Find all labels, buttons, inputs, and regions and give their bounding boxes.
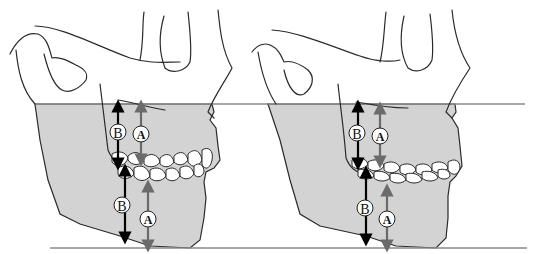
svg-text:A: A [376, 130, 385, 144]
svg-text:A: A [144, 213, 153, 227]
right-nasal [446, 10, 470, 118]
left-lower-a-label: A [140, 211, 156, 227]
svg-text:B: B [117, 199, 126, 214]
left-upper-b-label: B [110, 124, 126, 141]
right-panel: B A B A [252, 10, 527, 248]
left-condyle [10, 34, 87, 92]
left-panel: B A B A [10, 10, 268, 248]
left-ramus [16, 50, 35, 104]
svg-text:B: B [352, 127, 361, 142]
svg-text:B: B [113, 126, 122, 141]
svg-text:A: A [383, 213, 392, 227]
right-upper-a-label: A [372, 128, 388, 144]
left-orbit-rim [140, 12, 144, 60]
svg-text:B: B [360, 202, 369, 217]
svg-text:A: A [137, 128, 146, 142]
left-zygomatic-arch [35, 26, 180, 62]
left-upper-a-label: A [133, 126, 149, 142]
left-lower-b-label: B [114, 197, 130, 214]
left-nasal [208, 10, 232, 118]
right-orbit-rim [380, 12, 386, 62]
right-ramus [258, 52, 276, 104]
right-lower-a-label: A [379, 211, 395, 227]
right-upper-b-label: B [349, 125, 365, 142]
skull-comparison-figure: B A B A [0, 0, 536, 254]
right-lower-b-label: B [357, 200, 373, 217]
diagram: B A B A [0, 0, 536, 254]
right-orbit [401, 14, 432, 71]
